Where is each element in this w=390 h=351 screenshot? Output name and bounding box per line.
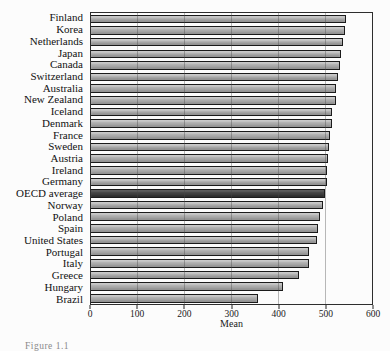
category-label: Italy [0, 258, 87, 270]
category-label: Switzerland [0, 71, 87, 83]
gridline-200 [184, 13, 185, 304]
category-label: Iceland [0, 106, 87, 118]
category-label: Ireland [0, 164, 87, 176]
bar-finland [91, 15, 346, 24]
bar-hungary [91, 282, 283, 291]
category-label: Poland [0, 211, 87, 223]
category-label: Hungary [0, 282, 87, 294]
plot-area [90, 12, 373, 305]
figure-caption: Figure 1.1 [25, 341, 69, 351]
bar-france [91, 131, 330, 140]
gridline-100 [137, 13, 138, 304]
bar-spain [91, 224, 318, 233]
category-label: Finland [0, 12, 87, 24]
bar-portugal [91, 247, 309, 256]
bar-canada [91, 61, 340, 70]
bar-poland [91, 212, 320, 221]
category-label: Denmark [0, 117, 87, 129]
bar-ireland [91, 166, 327, 175]
bar-greece [91, 271, 299, 280]
bar-austria [91, 154, 328, 163]
x-axis-label: Mean [90, 318, 373, 329]
category-label: Australia [0, 82, 87, 94]
category-label: Japan [0, 47, 87, 59]
category-label: United States [0, 235, 87, 247]
gridline-400 [278, 13, 279, 304]
bar-australia [91, 84, 336, 93]
bar-korea [91, 26, 345, 35]
bar-oecd-average [91, 189, 325, 198]
bar-sweden [91, 143, 329, 152]
category-label: Greece [0, 270, 87, 282]
bar-iceland [91, 108, 332, 117]
category-label: Norway [0, 200, 87, 212]
category-label: Korea [0, 24, 87, 36]
bar-brazil [91, 294, 258, 303]
bar-norway [91, 201, 323, 210]
category-label: Austria [0, 153, 87, 165]
bar-new-zealand [91, 96, 336, 105]
category-labels: FinlandKoreaNetherlandsJapanCanadaSwitze… [0, 12, 87, 305]
bar-netherlands [91, 38, 343, 47]
category-label: OECD average [0, 188, 87, 200]
bar-united-states [91, 236, 317, 245]
category-label: Canada [0, 59, 87, 71]
category-label: New Zealand [0, 94, 87, 106]
category-label: Spain [0, 223, 87, 235]
category-label: Germany [0, 176, 87, 188]
bar-italy [91, 259, 309, 268]
category-label: France [0, 129, 87, 141]
category-label: Brazil [0, 293, 87, 305]
gridline-300 [231, 13, 232, 304]
bar-japan [91, 50, 341, 59]
category-label: Portugal [0, 246, 87, 258]
category-label: Netherlands [0, 35, 87, 47]
gridline-500 [325, 13, 326, 304]
category-label: Sweden [0, 141, 87, 153]
bar-denmark [91, 119, 332, 128]
bar-germany [91, 178, 327, 187]
bar-switzerland [91, 73, 338, 82]
